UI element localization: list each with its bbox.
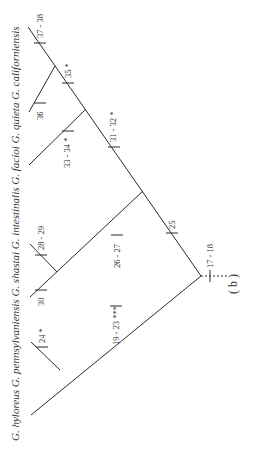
- label-36: 36: [35, 112, 45, 121]
- branch-root-to-californiensis: [28, 27, 201, 276]
- label-35: 35 *: [63, 63, 73, 78]
- label-17-18: 17 - 18: [205, 244, 215, 268]
- panel-label: ( b ): [226, 274, 240, 294]
- label-25: 25: [167, 221, 177, 230]
- label-19-23: 19 - 23 ***: [111, 306, 121, 345]
- label-33-34: 33 - 34 *: [62, 138, 72, 168]
- label-31-32: 31 - 32 *: [108, 112, 118, 142]
- label-37-38: 37 - 38: [35, 14, 45, 38]
- branch-quieta: [29, 66, 55, 112]
- label-30: 30: [36, 298, 46, 307]
- branch-shastai-clade: [30, 191, 143, 297]
- label-28-29: 28 - 29: [36, 226, 46, 250]
- label-26-27: 26 - 27: [112, 244, 122, 268]
- taxa-labels: G. hyloreus G. pennsylvaniensis G. shast…: [9, 26, 21, 441]
- branch-pennsylvaniensis: [31, 342, 60, 370]
- label-24: 24 *: [37, 328, 47, 343]
- cladogram: G. hyloreus G. pennsylvaniensis G. shast…: [0, 0, 257, 451]
